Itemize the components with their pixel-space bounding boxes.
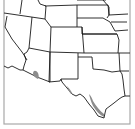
minnesota-border [103,0,128,15]
iowa-missouri-border [115,30,128,31]
wyoming-border [45,5,77,27]
oklahoma-border [78,53,120,72]
southern-arizona-patch [33,71,39,79]
sd-ne-border [77,18,115,31]
state-boundaries [4,0,130,118]
texas-big-bend-edge [67,86,72,94]
shaded-regions [33,71,104,117]
idaho-montana-border [38,0,46,19]
colorado-border [50,27,84,53]
nebraska-border [77,27,117,34]
range-map [0,0,135,129]
or-nv-border [4,13,45,19]
dakotas-border [77,5,109,18]
new-mexico-border [49,52,78,82]
kansas-border [82,34,119,53]
texas-border [61,71,125,118]
california-coast [4,66,23,70]
utah-border [29,17,50,52]
nevada-border [5,16,27,60]
idaho-border [20,0,22,14]
